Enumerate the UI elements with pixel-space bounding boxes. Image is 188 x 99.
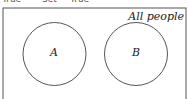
set-a-label: A xyxy=(50,46,58,59)
universe-label: All people xyxy=(128,10,184,23)
set-b-label: B xyxy=(132,46,140,59)
